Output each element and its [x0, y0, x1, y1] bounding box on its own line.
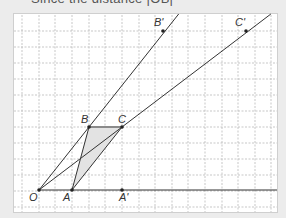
label-o: O — [29, 191, 38, 203]
point-c-prime — [244, 29, 248, 33]
enlargement-diagram: OABCA'B'C' — [0, 0, 286, 218]
label-a: A — [62, 191, 70, 203]
label-b-prime: B' — [154, 16, 164, 28]
point-c — [120, 125, 124, 129]
grid — [14, 15, 277, 212]
point-b-prime — [161, 29, 165, 33]
label-b: B — [81, 113, 88, 125]
ray-o-b-prime — [39, 14, 179, 190]
point-b — [87, 125, 91, 129]
label-a-prime: A' — [118, 191, 129, 203]
point-o — [37, 188, 41, 192]
label-c: C — [118, 113, 126, 125]
construction-lines — [39, 14, 277, 190]
point-a — [70, 188, 74, 192]
label-c-prime: C' — [235, 16, 246, 28]
